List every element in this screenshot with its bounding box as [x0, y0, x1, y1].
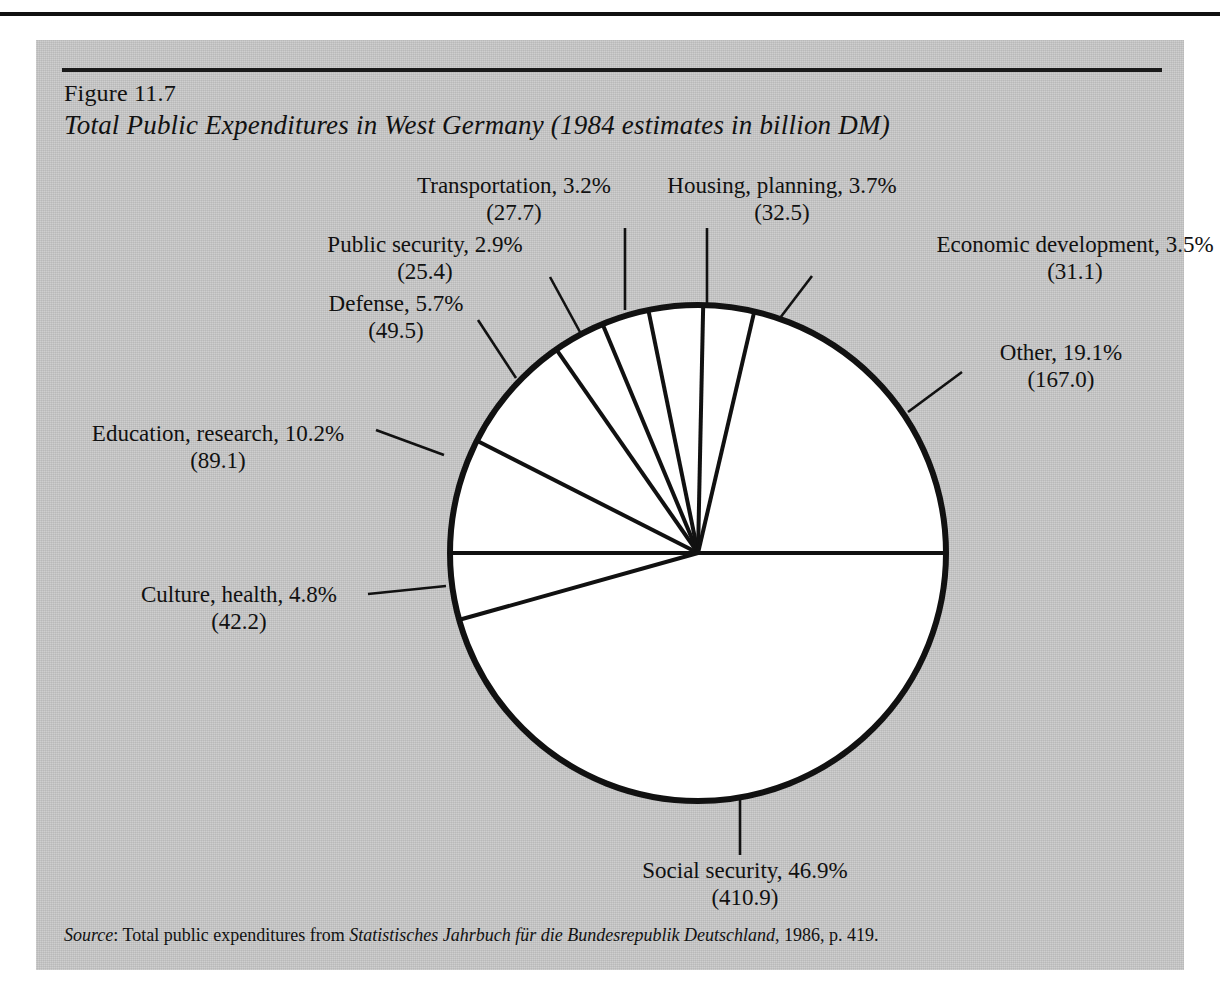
callout-housing-planning: Housing, planning, 3.7% (32.5) — [652, 172, 912, 226]
callout-economic-development-line1: Economic development, 3.5% — [936, 232, 1213, 257]
callout-culture-health: Culture, health, 4.8% (42.2) — [110, 581, 368, 635]
source-note: Source: Total public expenditures from S… — [64, 925, 878, 946]
callout-housing-planning-line2: (32.5) — [652, 199, 912, 226]
callout-education-research-line2: (89.1) — [58, 447, 378, 474]
callout-defense: Defense, 5.7% (49.5) — [310, 290, 482, 344]
callout-public-security-line1: Public security, 2.9% — [327, 232, 522, 257]
callout-culture-health-line2: (42.2) — [110, 608, 368, 635]
callout-economic-development: Economic development, 3.5% (31.1) — [930, 231, 1220, 285]
leader-line-public-security — [550, 277, 580, 332]
callout-other-line1: Other, 19.1% — [1000, 340, 1122, 365]
leader-line-economic-development — [780, 276, 812, 318]
callout-defense-line2: (49.5) — [310, 317, 482, 344]
callout-defense-line1: Defense, 5.7% — [329, 291, 464, 316]
leader-line-education-research — [376, 430, 444, 455]
callout-transportation-line2: (27.7) — [399, 199, 629, 226]
pie-chart-svg — [0, 0, 1220, 1006]
callout-transportation: Transportation, 3.2% (27.7) — [399, 172, 629, 226]
callout-social-security: Social security, 46.9% (410.9) — [620, 857, 870, 911]
callout-education-research: Education, research, 10.2% (89.1) — [58, 420, 378, 474]
source-suffix: , 1986, p. 419. — [775, 925, 879, 945]
callout-housing-planning-line1: Housing, planning, 3.7% — [667, 173, 896, 198]
leader-line-defense — [478, 320, 516, 378]
callout-social-security-line2: (410.9) — [620, 884, 870, 911]
source-label: Source — [64, 925, 113, 945]
callout-other-line2: (167.0) — [975, 366, 1147, 393]
callout-education-research-line1: Education, research, 10.2% — [92, 421, 344, 446]
callout-economic-development-line2: (31.1) — [930, 258, 1220, 285]
pie-slices — [450, 305, 946, 801]
callout-other: Other, 19.1% (167.0) — [975, 339, 1147, 393]
leader-line-other — [908, 372, 962, 412]
leader-line-culture-health — [368, 586, 446, 594]
callout-transportation-line1: Transportation, 3.2% — [417, 173, 611, 198]
source-prefix: : Total public expenditures from — [113, 925, 349, 945]
pie-chart: Transportation, 3.2% (27.7) Housing, pla… — [0, 0, 1220, 1006]
callout-social-security-line1: Social security, 46.9% — [642, 858, 847, 883]
callout-public-security: Public security, 2.9% (25.4) — [306, 231, 544, 285]
source-publication: Statistisches Jahrbuch für die Bundesrep… — [349, 925, 775, 945]
callout-public-security-line2: (25.4) — [306, 258, 544, 285]
callout-culture-health-line1: Culture, health, 4.8% — [141, 582, 337, 607]
